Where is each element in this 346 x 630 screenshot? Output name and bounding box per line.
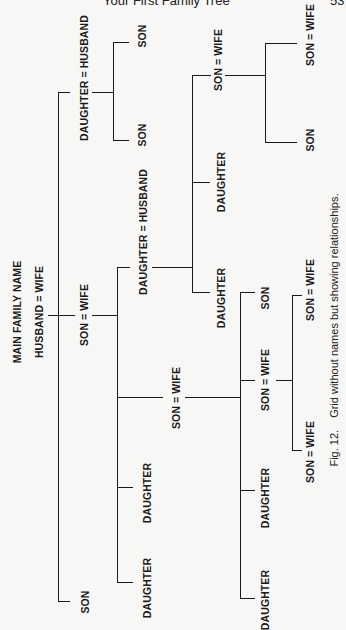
tick [117,487,133,488]
tick [292,295,302,296]
root-couple: HUSBAND = WIFE [34,266,45,358]
tick [265,43,297,44]
gen2-son-wife: SON = WIFE [171,367,182,429]
gen1-son-wife: SON = WIFE [79,284,90,346]
gen3-son-wife: SON = WIFE [260,349,271,411]
branch-line [240,292,241,598]
tick [192,292,210,293]
gen2-daughter-a: DAUGHTER [142,463,153,523]
tick-son [58,601,70,602]
trunk-line [58,92,59,601]
gen2-son-bottom: SON [137,123,148,146]
gen4-son-wife-b: SON = WIFE [305,421,316,483]
figure-label: Fig. 12. [328,430,340,467]
gen4-son-wife-a: SON = WIFE [305,259,316,321]
branch-line [265,43,266,142]
main-family-name: MAIN FAMILY NAME [12,261,23,364]
gen4-son: SON [305,128,316,151]
branch-line [117,267,118,582]
tick [192,182,210,183]
branch-line [192,75,193,292]
connector-line [92,315,117,316]
gen3-daughter-a: DAUGHTER [216,152,227,212]
gen3-son-wife: SON = WIFE [213,29,224,91]
tick [113,42,129,43]
connector-line [225,75,265,76]
tick [117,267,130,268]
gen3-daughter-a: DAUGHTER [260,468,271,528]
tick-daughter-husband [58,92,70,93]
figure-caption: Fig. 12.Grid without names but showing r… [329,193,340,466]
gen1-son: SON [80,590,91,613]
tick [113,140,129,141]
root-connector [48,315,75,316]
tick [192,75,211,76]
gen3-son: SON [260,286,271,309]
gen3-daughter-b: DAUGHTER [216,268,227,328]
connector-line [152,267,192,268]
tick [265,142,297,143]
branch-line [292,295,293,450]
gen1-daughter-husband: DAUGHTER = HUSBAND [79,15,90,141]
tick [292,450,302,451]
connector-line [92,92,113,93]
gen2-son-top: SON [137,24,148,47]
tick [240,598,255,599]
connector-line [276,380,292,381]
gen3-daughter-b: DAUGHTER [260,570,271,630]
page-number: 53 [330,0,344,8]
tick [240,380,255,381]
gen2-daughter-b: DAUGHTER [142,558,153,618]
tick [240,490,255,491]
gen4-son-wife: SON = WIFE [305,4,316,66]
branch-line [113,42,114,141]
caption-text: Grid without names but showing relations… [328,193,340,417]
tick [117,582,133,583]
gen2-daughter-husband: DAUGHTER = HUSBAND [138,169,149,295]
tick [117,397,163,398]
tick [240,292,255,293]
running-title: Your First Family Tree [103,0,230,8]
connector-line [185,397,240,398]
